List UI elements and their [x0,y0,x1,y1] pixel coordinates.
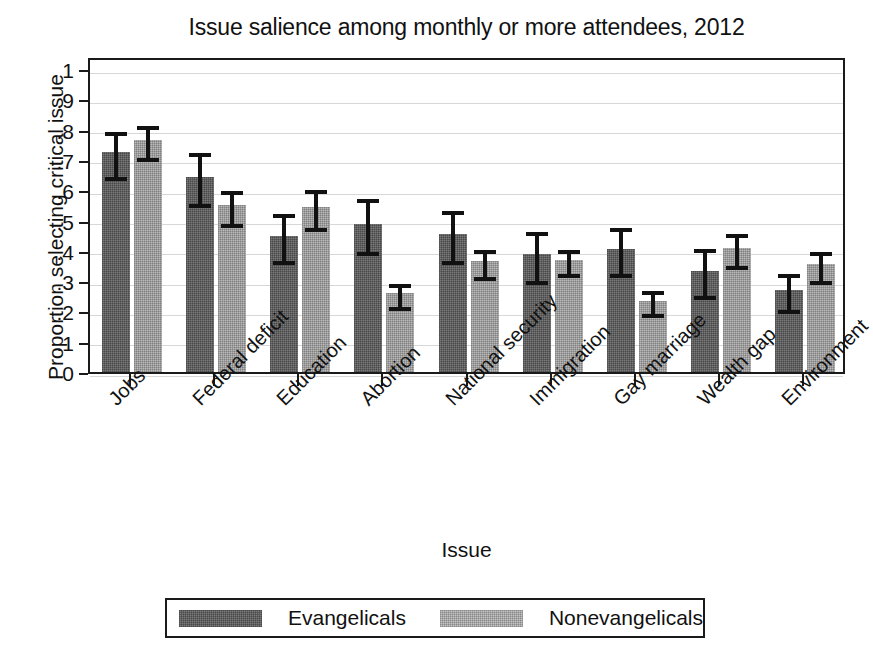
error-bar-cap-upper [610,228,632,232]
error-bar-stem [366,199,370,257]
error-bar-cap-upper [778,274,800,278]
legend-label-nonevangelicals: Nonevangelicals [549,606,703,630]
legend-swatch-nonevangelicals [440,610,523,627]
error-bar-cap-lower [610,274,632,278]
error-bar-cap-upper [442,211,464,215]
error-bar [302,190,330,232]
error-bar [134,126,162,162]
error-bar-stem [198,153,202,208]
error-bar [691,249,719,301]
error-bar-stem [451,211,455,266]
y-axis-tick-labels: 0.1.2.3.4.5.6.7.8.91 [8,58,74,374]
error-bar [270,214,298,266]
error-bar-cap-upper [357,199,379,203]
error-bar-cap-lower [305,228,327,232]
error-bar-cap-lower [558,274,580,278]
chart-title: Issue salience among monthly or more att… [88,14,845,41]
error-bar-cap-lower [389,307,411,311]
error-bar-stem [282,214,286,266]
error-bar [218,191,246,227]
y-axis-tick [79,312,88,314]
plot-area [88,58,845,374]
error-bar-cap-lower [442,261,464,265]
error-bar-cap-lower [273,261,295,265]
x-axis-title: Issue [88,538,845,562]
gridline [90,133,843,134]
error-bar [723,234,751,270]
error-bar-stem [619,228,623,278]
error-bar-cap-lower [694,296,716,300]
error-bar [639,291,667,318]
error-bar [102,132,130,180]
error-bar-cap-upper [726,234,748,238]
error-bar-cap-upper [558,250,580,254]
error-bar-cap-upper [642,291,664,295]
error-bar [523,232,551,285]
y-axis-tick [79,70,88,72]
error-bar-cap-lower [778,310,800,314]
error-bar-cap-lower [810,281,832,285]
bar[interactable] [102,152,130,372]
bar[interactable] [134,140,162,372]
error-bar-stem [146,126,150,162]
chart-legend: Evangelicals Nonevangelicals [165,598,705,638]
y-axis-tick [79,161,88,163]
y-axis-tick [79,282,88,284]
error-bar-cap-upper [474,250,496,254]
error-bar-cap-lower [105,177,127,181]
legend-label-evangelicals: Evangelicals [288,606,406,630]
error-bar-cap-lower [357,252,379,256]
error-bar-stem [230,191,234,227]
y-axis-tick [79,100,88,102]
y-axis-tick [79,343,88,345]
y-axis-tick [79,222,88,224]
error-bar-cap-lower [137,158,159,162]
error-bar-cap-upper [810,252,832,256]
plot-inner [90,60,843,372]
y-axis-tick-label: .6 [14,181,74,202]
error-bar-cap-upper [273,214,295,218]
gridline [90,73,843,74]
error-bar-stem [735,234,739,270]
error-bar-cap-upper [526,232,548,236]
error-bar-cap-lower [726,266,748,270]
legend-item-evangelicals[interactable]: Evangelicals [167,606,428,630]
error-bar-cap-upper [221,191,243,195]
y-axis-tick-label: .7 [14,151,74,172]
y-axis-tick-label: .1 [14,333,74,354]
error-bar-stem [535,232,539,285]
y-axis-tick [79,373,88,375]
y-axis-tick-label: .5 [14,212,74,233]
error-bar-cap-lower [474,277,496,281]
y-axis-tick [79,131,88,133]
error-bar-cap-upper [694,249,716,253]
error-bar [386,284,414,311]
error-bar [555,250,583,277]
y-axis-tick-label: .3 [14,272,74,293]
error-bar-stem [114,132,118,180]
error-bar [807,252,835,285]
y-axis-tick [79,191,88,193]
error-bar-stem [819,252,823,285]
y-axis-tick-label: .8 [14,121,74,142]
x-axis-tick-labels: JobsFederal deficitEducationAbortionNati… [88,388,845,528]
y-axis-tick [79,252,88,254]
error-bar [439,211,467,266]
error-bar-cap-upper [389,284,411,288]
error-bar-cap-upper [137,126,159,130]
error-bar-cap-upper [189,153,211,157]
error-bar [471,250,499,280]
y-axis-tick-label: .4 [14,242,74,263]
error-bar [607,228,635,278]
error-bar-cap-lower [189,204,211,208]
error-bar-cap-upper [305,190,327,194]
legend-item-nonevangelicals[interactable]: Nonevangelicals [428,606,703,630]
gridline [90,103,843,104]
error-bar [186,153,214,208]
error-bar-cap-upper [105,132,127,136]
error-bar-cap-lower [526,281,548,285]
legend-swatch-evangelicals [179,610,262,627]
error-bar-cap-lower [221,224,243,228]
error-bar-stem [787,274,791,313]
